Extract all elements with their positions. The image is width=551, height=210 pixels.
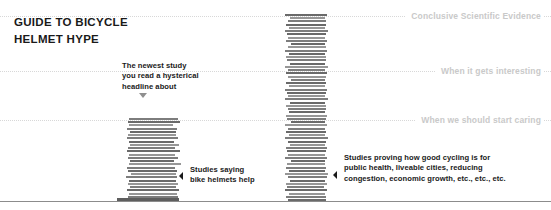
paper-sheet — [126, 176, 177, 178]
paper-sheet — [128, 121, 180, 123]
paper-sheet — [127, 189, 179, 191]
paper-sheet — [290, 180, 325, 182]
paper-sheet — [128, 134, 176, 136]
paper-sheet — [130, 131, 176, 133]
paper-sheet — [287, 163, 325, 165]
annotation-cycling-benefits: Studies proving how good cycling is for … — [344, 153, 549, 184]
paper-sheet — [289, 134, 325, 136]
paper-sheet — [289, 193, 325, 195]
paper-sheet — [288, 20, 326, 22]
paper-sheet — [287, 33, 326, 35]
paper-sheet — [286, 82, 326, 84]
paper-sheet — [287, 118, 326, 120]
paper-sheet — [285, 137, 328, 139]
paper-sheet — [288, 69, 325, 71]
chevron-left-icon-evidence — [333, 171, 337, 179]
paper-sheet — [286, 56, 326, 58]
paper-sheet — [286, 196, 326, 198]
paper-sheet — [129, 141, 174, 143]
paper-sheet — [290, 102, 325, 104]
paper-sheet — [131, 173, 176, 175]
paper-sheet — [288, 76, 326, 78]
paper-sheet — [128, 147, 175, 149]
paper-sheet — [286, 40, 327, 42]
chevron-left-icon-helmets — [179, 172, 183, 180]
paper-sheet — [289, 111, 325, 113]
paper-sheet — [288, 95, 325, 97]
paper-sheet — [289, 85, 325, 87]
paper-sheet — [130, 144, 179, 146]
paper-sheet — [285, 124, 327, 126]
paper-sheet — [290, 144, 325, 146]
paper-sheet — [287, 186, 324, 188]
paper-sheet — [129, 163, 181, 165]
paper-sheet — [286, 131, 326, 133]
annotation-newest-study: The newest study you read a hysterical h… — [122, 61, 227, 92]
paper-sheet — [285, 30, 328, 32]
annotation-helmet-studies: Studies saying bike helmets help — [190, 165, 290, 186]
paper-sheet — [127, 128, 177, 130]
paper-sheet — [127, 167, 175, 169]
paper-sheet — [285, 14, 327, 16]
paper-sheet — [289, 27, 325, 29]
gridline-label-1: When it gets interesting — [435, 66, 543, 76]
paper-sheet — [290, 63, 325, 65]
paper-sheet — [285, 157, 327, 159]
paper-sheet — [130, 186, 176, 188]
paper-sheet — [285, 89, 327, 91]
paper-sheet — [286, 115, 327, 117]
paper-sheet — [128, 157, 178, 159]
paper-sheet — [129, 124, 173, 126]
paper-sheet — [286, 105, 326, 107]
paper-sheet — [286, 72, 327, 74]
paper-sheet — [289, 170, 325, 172]
paper-sheet — [288, 141, 326, 143]
paper-sheet — [287, 150, 326, 152]
paper-sheet — [285, 173, 328, 175]
paper-sheet — [128, 196, 178, 198]
paper-sheet — [130, 160, 174, 162]
paper-sheet — [285, 189, 327, 191]
paper-sheet — [288, 128, 325, 130]
paper-sheet — [289, 53, 325, 55]
baseline-axis — [0, 201, 551, 202]
paper-sheet — [291, 160, 325, 162]
paper-sheet — [285, 98, 328, 100]
paper-sheet — [288, 176, 327, 178]
paper-sheet — [286, 147, 327, 149]
paper-sheet — [128, 183, 178, 185]
paper-sheet — [291, 79, 325, 81]
gridline-label-0: Conclusive Scientific Evidence — [405, 11, 543, 21]
gridline-label-2: When we should start caring — [415, 115, 543, 125]
paper-sheet — [288, 154, 325, 156]
paper-sheet — [286, 24, 326, 26]
paper-sheet — [291, 121, 325, 123]
paper-sheet — [286, 167, 326, 169]
chevron-down-icon — [139, 93, 147, 98]
infographic-canvas: GUIDE TO BICYCLE HELMET HYPE Conclusive … — [0, 0, 551, 210]
paper-sheet — [285, 66, 328, 68]
paper-sheet — [128, 170, 177, 172]
paper-sheet — [288, 37, 325, 39]
paper-sheet — [129, 180, 176, 182]
paper-sheet — [127, 150, 180, 152]
paper-sheet — [129, 118, 178, 120]
paper-sheet — [288, 46, 326, 48]
paper-sheet — [127, 137, 178, 139]
paper-sheet — [287, 59, 326, 61]
paper-sheet — [285, 50, 327, 52]
paper-sheet — [288, 108, 326, 110]
paper-sheet — [286, 183, 327, 185]
paper-sheet — [287, 92, 326, 94]
paper-sheet — [129, 193, 177, 195]
paper-sheet — [291, 43, 325, 45]
paper-sheet — [290, 17, 325, 19]
paper-sheet — [129, 154, 175, 156]
page-title: GUIDE TO BICYCLE HELMET HYPE — [14, 14, 204, 48]
